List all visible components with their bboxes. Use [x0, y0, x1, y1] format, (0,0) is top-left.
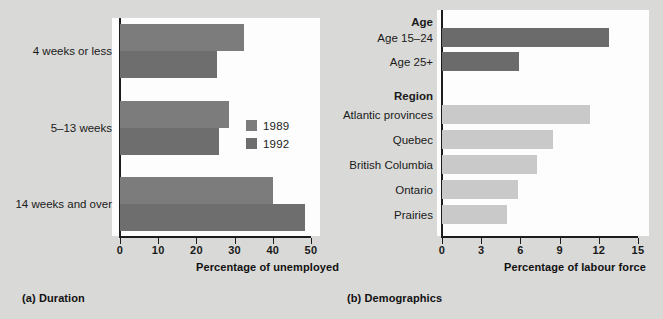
panel-b-caption: (b) Demographics — [347, 292, 442, 304]
panel-a-axis-title: Percentage of unemployed — [196, 261, 339, 273]
bar-1989-group2 — [120, 101, 229, 128]
bar-age-age-15-24 — [442, 28, 609, 47]
bar-1989-group3 — [120, 177, 273, 204]
panel-a-legend: 1989 1992 — [246, 118, 289, 154]
panel-b-axis-title: Percentage of labour force — [504, 261, 646, 273]
panel-a-x-axis-line — [119, 236, 311, 238]
panel-b-category-label: Atlantic provinces — [343, 109, 433, 121]
bar-region-ontario — [442, 180, 518, 199]
bar-1992-group2 — [120, 128, 219, 155]
legend-label-1992: 1992 — [263, 138, 289, 150]
panel-a-tick-label: 20 — [190, 244, 203, 256]
legend-label-1989: 1989 — [263, 120, 289, 132]
bar-1992-group3 — [120, 204, 305, 231]
panel-a-tick-label: 40 — [266, 244, 279, 256]
panel-b-tick-label: 9 — [556, 244, 562, 256]
panel-b-tick-label: 12 — [592, 244, 605, 256]
bar-age-age-25- — [442, 52, 519, 71]
panel-b-group-heading: Age — [411, 16, 433, 28]
panel-a-category-label: 14 weeks and over — [15, 198, 112, 210]
panel-a-tick-label: 0 — [117, 244, 123, 256]
panel-a-tick-label: 30 — [228, 244, 241, 256]
legend-swatch-1989-icon — [246, 120, 257, 131]
panel-b-tick-label: 0 — [439, 244, 445, 256]
panel-b-category-label: Age 15–24 — [377, 32, 433, 44]
panel-b-category-label: Age 25+ — [390, 56, 433, 68]
figure-canvas: 4 weeks or less5–13 weeks14 weeks and ov… — [0, 0, 663, 319]
panel-a-category-label: 4 weeks or less — [33, 45, 112, 57]
bar-1992-group1 — [120, 51, 217, 78]
panel-b-category-label: Ontario — [395, 184, 433, 196]
bar-region-prairies — [442, 205, 507, 224]
panel-b-group-heading: Region — [394, 90, 433, 102]
panel-a-tick-label: 10 — [152, 244, 165, 256]
legend-item: 1989 — [246, 118, 289, 133]
panel-b-tick-label: 15 — [632, 244, 645, 256]
panel-b-tick-label: 3 — [478, 244, 484, 256]
panel-a-category-label: 5–13 weeks — [51, 122, 112, 134]
panel-b-tick-label: 6 — [517, 244, 523, 256]
panel-a-duration: 4 weeks or less5–13 weeks14 weeks and ov… — [0, 0, 332, 319]
panel-b-demographics: AgeAge 15–24Age 25+RegionAtlantic provin… — [332, 0, 663, 319]
panel-b-x-axis-line — [441, 236, 638, 238]
panel-b-category-label: Quebec — [393, 134, 433, 146]
bar-region-atlantic-provinces — [442, 105, 590, 124]
legend-swatch-1992-icon — [246, 138, 257, 149]
legend-item: 1992 — [246, 136, 289, 151]
panel-b-category-label: Prairies — [394, 209, 433, 221]
bar-region-british-columbia — [442, 155, 537, 174]
bar-region-quebec — [442, 130, 553, 149]
panel-b-category-label: British Columbia — [349, 159, 433, 171]
bar-1989-group1 — [120, 24, 244, 51]
panel-a-caption: (a) Duration — [22, 292, 85, 304]
panel-a-tick-label: 50 — [305, 244, 318, 256]
